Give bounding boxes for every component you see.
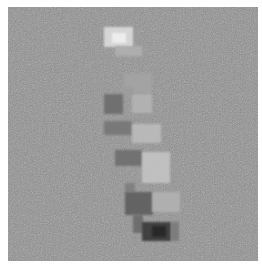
pixel-block [132,94,152,113]
pixel-block [115,150,142,166]
pixel-block [104,94,123,114]
pixel-block [125,192,153,215]
pixel-block [171,222,179,241]
image-description: Noisy grayscale pixelated image showing … [0,0,1,1]
pixel-block [123,87,133,95]
pixel-block [115,46,142,56]
pixel-block [125,183,135,192]
pixel-block [104,121,132,135]
pixel-block [132,124,161,143]
pixel-block [112,33,126,43]
pixel-block [152,226,166,237]
pixel-block [142,152,170,183]
pixel-block [152,192,180,212]
noisy-digit-image [8,7,258,261]
